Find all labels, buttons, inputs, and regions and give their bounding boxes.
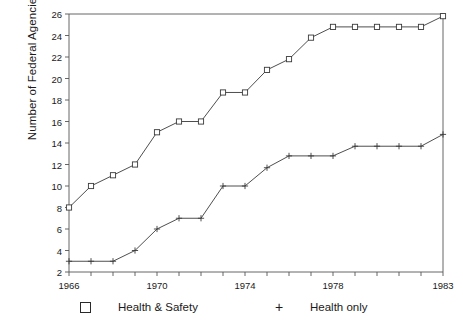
x-axis-tick: 1983: [432, 280, 453, 291]
plus-marker-icon: +: [274, 303, 284, 312]
legend-item-health-only[interactable]: + Health only: [274, 301, 368, 313]
x-axis-tick-labels: 19661970197419781983: [0, 0, 463, 326]
x-axis-tick: 1978: [322, 280, 343, 291]
chart-figure: Number of Federal Agencies 2468101214161…: [0, 0, 463, 326]
chart-legend: Health & Safety + Health only: [0, 299, 463, 321]
x-axis-tick: 1966: [58, 280, 79, 291]
legend-label: Health only: [310, 301, 368, 313]
square-marker-icon: [80, 302, 91, 313]
legend-label: Health & Safety: [118, 301, 198, 313]
legend-item-health-and-safety[interactable]: Health & Safety: [80, 301, 198, 313]
x-axis-tick: 1974: [234, 280, 255, 291]
x-axis-tick: 1970: [146, 280, 167, 291]
